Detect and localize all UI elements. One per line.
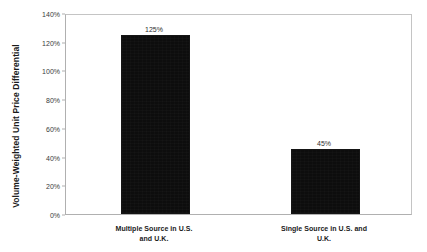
x-axis-category-label-line: Multiple Source in U.S. [79, 224, 229, 234]
plot-area [65, 14, 412, 215]
y-axis-tick-label: 40% [26, 154, 60, 161]
x-axis-category-label: Single Source in U.S. andU.K. [249, 224, 399, 244]
y-axis-tick-label: 60% [26, 125, 60, 132]
x-axis-category-label-line: U.K. [249, 234, 399, 244]
bar-value-label: 45% [317, 140, 331, 147]
x-axis-category-label-line: and U.K. [79, 234, 229, 244]
y-axis-tick-label: 0% [26, 212, 60, 219]
y-axis-tick-label: 100% [26, 68, 60, 75]
x-axis-category-label: Multiple Source in U.S.and U.K. [79, 224, 229, 244]
y-axis-tick-label: 120% [26, 39, 60, 46]
bar [121, 35, 190, 214]
bar [291, 149, 360, 214]
x-axis-category-label-line: Single Source in U.S. and [249, 224, 399, 234]
y-axis-tick-label: 80% [26, 97, 60, 104]
bar-chart: Volume-Weighted Unit Price Differential … [0, 0, 427, 252]
y-axis-tick-label: 20% [26, 183, 60, 190]
bar-value-label: 125% [145, 26, 163, 33]
y-axis-tick-label: 140% [26, 11, 60, 18]
